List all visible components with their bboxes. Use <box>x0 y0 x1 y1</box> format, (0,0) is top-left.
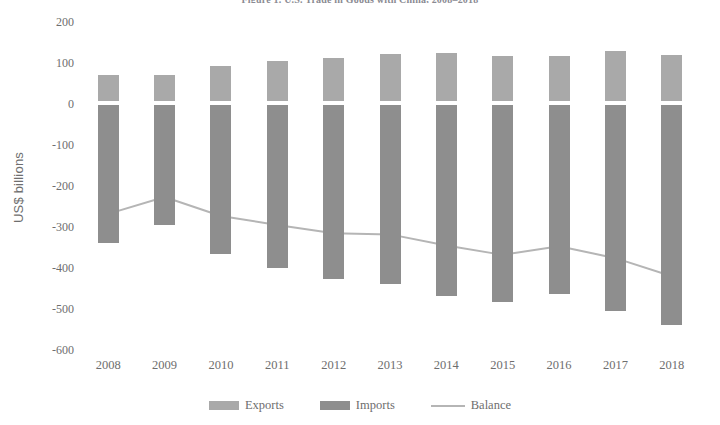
x-tick-2009: 2009 <box>135 358 195 373</box>
x-tick-2008: 2008 <box>78 358 138 373</box>
x-tick-2017: 2017 <box>585 358 645 373</box>
legend-label-exports: Exports <box>245 398 284 413</box>
legend-swatch-imports <box>320 401 350 410</box>
legend-line-marker-balance <box>431 405 465 407</box>
x-axis-tick-labels: 2008200920102011201220132014201520162017… <box>0 0 720 425</box>
x-tick-2014: 2014 <box>416 358 476 373</box>
x-tick-2018: 2018 <box>642 358 702 373</box>
x-tick-2010: 2010 <box>191 358 251 373</box>
legend-label-balance: Balance <box>471 398 511 413</box>
x-tick-2016: 2016 <box>529 358 589 373</box>
legend-label-imports: Imports <box>356 398 395 413</box>
legend-swatch-exports <box>209 401 239 410</box>
x-tick-2013: 2013 <box>360 358 420 373</box>
chart-legend: ExportsImportsBalance <box>0 398 720 413</box>
x-tick-2012: 2012 <box>304 358 364 373</box>
x-tick-2011: 2011 <box>247 358 307 373</box>
chart-container: Figure 1. U.S. Trade in Goods with China… <box>0 0 720 425</box>
legend-item-balance[interactable]: Balance <box>431 398 511 413</box>
legend-item-imports[interactable]: Imports <box>320 398 395 413</box>
legend-item-exports[interactable]: Exports <box>209 398 284 413</box>
x-tick-2015: 2015 <box>473 358 533 373</box>
